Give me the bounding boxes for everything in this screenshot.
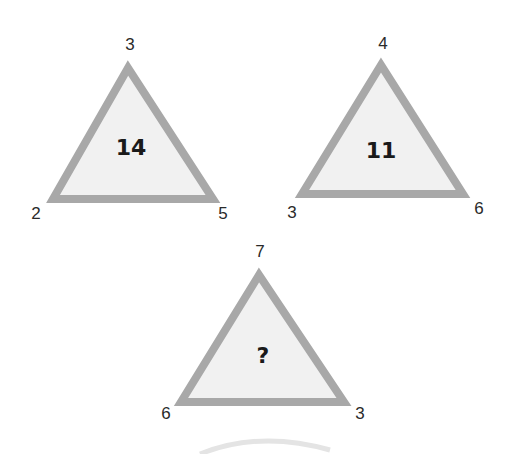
triangle-3: 7 6 3 ? [161,242,364,423]
triangle-2-center: 11 [366,138,397,163]
triangle-1-top: 3 [125,35,134,54]
triangle-3-center: ? [257,343,270,368]
triangle-2-top: 4 [378,34,387,53]
triangle-1-right: 5 [218,204,227,223]
triangle-1-left: 2 [31,204,40,223]
triangle-3-left: 6 [161,404,170,423]
triangle-2: 4 3 6 11 [287,34,483,222]
triangle-1-center: 14 [116,135,147,160]
triangle-2-right: 6 [474,199,483,218]
triangle-2-left: 3 [287,203,296,222]
triangle-1: 3 2 5 14 [31,35,227,223]
decorative-arc [200,441,330,454]
puzzle-canvas: 3 2 5 14 4 3 6 11 7 6 3 ? [0,0,515,454]
triangle-3-top: 7 [255,242,264,261]
triangle-3-right: 3 [355,404,364,423]
